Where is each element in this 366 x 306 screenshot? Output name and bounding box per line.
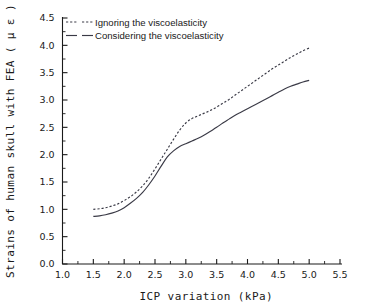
y-axis-title: Strains of human skull with FEA ( μ ε )	[4, 4, 17, 278]
x-tick-label: 3.0	[178, 269, 193, 280]
y-tick-label: 0.5	[39, 231, 54, 242]
y-tick-label: 2.0	[39, 149, 54, 160]
chart-legend: Ignoring the viscoelasticityConsidering …	[66, 17, 224, 41]
y-tick-label: 0.0	[39, 258, 54, 269]
x-tick-label: 1.0	[55, 269, 70, 280]
legend-label-1: Considering the viscoelasticity	[95, 30, 224, 41]
x-tick-labels: 1.01.52.02.53.03.54.04.55.05.5	[55, 269, 348, 280]
series-line-1	[93, 80, 309, 216]
x-tick-label: 2.5	[147, 269, 162, 280]
series-line-0	[93, 48, 309, 209]
y-tick-label: 3.5	[39, 67, 54, 78]
x-tick-label: 1.5	[86, 269, 101, 280]
x-tick-label: 4.5	[271, 269, 286, 280]
x-axis-title: ICP variation (kPa)	[140, 290, 273, 303]
axes	[63, 17, 343, 264]
chart-figure: 1.01.52.02.53.03.54.04.55.05.5 0.00.51.0…	[0, 0, 366, 306]
y-tick-label: 3.0	[39, 94, 54, 105]
legend-label-0: Ignoring the viscoelasticity	[95, 17, 207, 28]
y-tick-label: 4.0	[39, 40, 54, 51]
y-tick-labels: 0.00.51.01.52.02.53.03.54.04.5	[39, 12, 54, 269]
line-chart: 1.01.52.02.53.03.54.04.55.05.5 0.00.51.0…	[0, 0, 366, 306]
x-tick-label: 5.0	[302, 269, 317, 280]
x-tick-label: 2.0	[117, 269, 132, 280]
x-tick-label: 4.0	[240, 269, 255, 280]
data-series	[93, 48, 309, 216]
y-tick-label: 2.5	[39, 122, 54, 133]
y-tick-label: 1.5	[39, 176, 54, 187]
x-tick-label: 5.5	[332, 269, 347, 280]
axis-ticks	[63, 18, 341, 264]
x-tick-label: 3.5	[209, 269, 224, 280]
y-tick-label: 4.5	[39, 12, 54, 23]
axis-spine	[63, 17, 343, 264]
y-tick-label: 1.0	[39, 204, 54, 215]
